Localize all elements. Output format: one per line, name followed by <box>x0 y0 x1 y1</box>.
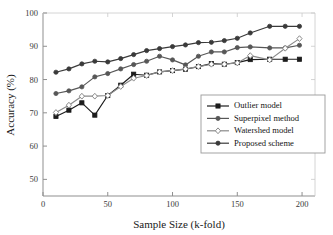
data-point <box>93 75 97 79</box>
data-point <box>80 62 84 66</box>
legend-label: Outlier model <box>234 100 283 110</box>
data-point <box>145 59 149 63</box>
data-point <box>157 47 161 51</box>
y-tick-label: 50 <box>30 174 39 184</box>
data-point <box>119 56 123 60</box>
data-point <box>93 59 97 63</box>
data-point <box>209 40 213 44</box>
legend-label: Proposed scheme <box>234 138 294 148</box>
x-tick-label: 150 <box>231 199 244 209</box>
data-point <box>93 113 97 117</box>
legend-marker <box>216 116 220 120</box>
data-point <box>222 39 226 43</box>
legend-marker <box>216 141 220 145</box>
data-point <box>170 58 174 62</box>
data-point <box>235 36 239 40</box>
data-point <box>235 46 239 50</box>
data-point <box>209 50 213 54</box>
data-point <box>106 60 110 64</box>
data-point <box>54 91 58 95</box>
data-point <box>268 24 272 28</box>
accuracy-line-chart: 5060708090100 050100150200 Sample Size (… <box>0 0 333 235</box>
data-point <box>248 31 252 35</box>
y-tick-label: 70 <box>30 108 39 118</box>
data-point <box>145 48 149 52</box>
data-point <box>297 43 301 47</box>
legend-label: Superpixel method <box>234 113 300 123</box>
data-point <box>80 85 84 89</box>
y-tick-label: 100 <box>25 8 38 18</box>
legend-marker <box>216 104 220 108</box>
data-point <box>297 24 301 28</box>
x-axis-title: Sample Size (k-fold) <box>133 218 225 231</box>
x-tick-label: 0 <box>41 199 45 209</box>
data-point <box>80 101 84 105</box>
chart-figure: 5060708090100 050100150200 Sample Size (… <box>0 0 333 235</box>
data-point <box>67 89 71 93</box>
data-point <box>222 50 226 54</box>
data-point <box>132 62 136 66</box>
data-point <box>119 67 123 71</box>
data-point <box>132 52 136 56</box>
data-point <box>297 57 301 61</box>
data-point <box>157 54 161 58</box>
data-point <box>67 67 71 71</box>
legend-label: Watershed model <box>234 125 294 135</box>
data-point <box>268 46 272 50</box>
x-tick-label: 50 <box>104 199 113 209</box>
data-point <box>54 70 58 74</box>
x-tick-label: 200 <box>296 199 309 209</box>
data-point <box>196 41 200 45</box>
y-tick-label: 80 <box>30 75 39 85</box>
chart-legend: Outlier modelSuperpixel methodWatershed … <box>201 95 325 153</box>
y-axis-title: Accuracy (%) <box>4 74 17 136</box>
y-tick-label: 90 <box>30 41 39 51</box>
data-point <box>283 24 287 28</box>
data-point <box>283 57 287 61</box>
y-tick-label: 60 <box>30 141 39 151</box>
data-point <box>183 43 187 47</box>
data-point <box>196 54 200 58</box>
data-point <box>248 45 252 49</box>
x-tick-label: 100 <box>166 199 179 209</box>
data-point <box>106 71 110 75</box>
data-point <box>170 45 174 49</box>
